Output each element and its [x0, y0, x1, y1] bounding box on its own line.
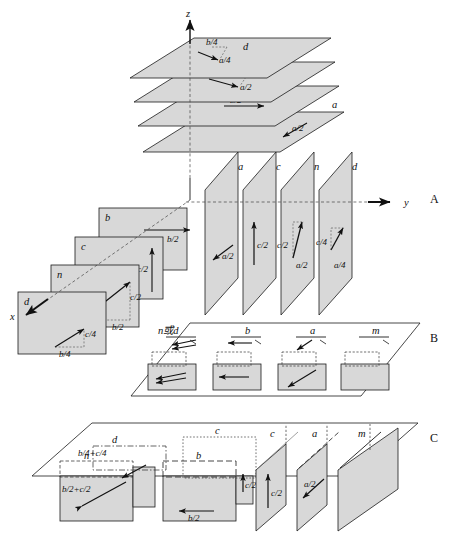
plane-label-right-c: c	[276, 161, 281, 172]
veclabel-right-a-half: a/2	[222, 251, 234, 261]
panel-c-veclabel-c-front: c/2	[245, 480, 256, 490]
panel-c-label-b: b	[196, 450, 201, 461]
panel-b-label-a: a	[310, 325, 315, 336]
plane-label-left-b: b	[105, 212, 110, 223]
panel-c-label-c-front: c	[215, 425, 220, 436]
panel-c-veclabel-a: a/2	[304, 479, 316, 489]
plane-right-c	[243, 152, 276, 315]
panel-c-dashed-b	[163, 461, 236, 477]
panel-b-label-m: m	[372, 325, 380, 336]
plane-label-horizontal-d: d	[243, 41, 249, 52]
veclabel-horizontal-a-half: a/2	[292, 123, 304, 133]
panel-b-leader-a	[320, 340, 326, 344]
axis-label-z: z	[185, 8, 190, 19]
veclabel-horizontal-d-b: b/4	[206, 37, 218, 47]
veclabel-right-c-half: c/2	[257, 240, 268, 250]
panel-c-dashed-c-front	[183, 437, 256, 478]
veclabel-right-n-a: a/2	[296, 260, 308, 270]
panel-b-plane-a	[278, 364, 326, 390]
panel-c-label-m: m	[358, 428, 366, 439]
veclabel-right-d-a: a/4	[334, 260, 346, 270]
plane-label-left-n: n	[57, 269, 62, 280]
plane-right-a	[205, 152, 238, 315]
axis-label-x: x	[9, 311, 15, 322]
plane-label-horizontal-a: a	[332, 99, 337, 110]
panel-b-group-m: m	[341, 325, 389, 390]
plane-right-d	[319, 152, 352, 315]
panel-c-dashed-n	[60, 461, 133, 477]
panel-b-plane-m	[341, 364, 389, 390]
plane-left-d	[18, 292, 106, 354]
veclabel-left-n-b: b/2	[112, 322, 124, 332]
panel-b: n或d b a	[131, 323, 420, 396]
plane-label-right-d: d	[352, 161, 358, 172]
veclabel-left-n-c: c/2	[130, 292, 141, 302]
panel-c-label-c-back: c	[270, 428, 275, 439]
axis-label-y: y	[403, 197, 409, 208]
panel-c-label-d: d	[112, 434, 118, 445]
panel-a-right-stack: a a/2 c c/2 n c/2 a/2 d c/4 a/4 y	[186, 152, 409, 315]
panel-b-arrow-n-or-d-1	[172, 345, 196, 349]
panel-c-veclabel-d: b/4+c/4	[78, 448, 107, 458]
veclabel-left-d-c: c/4	[85, 329, 96, 339]
plane-label-right-a: a	[238, 161, 243, 172]
panel-c-label-a: a	[312, 428, 317, 439]
veclabel-right-d-c: c/4	[316, 237, 327, 247]
panel-c: n b/2+c/2 d b/4+c/4 b b/2 c c/2 c c/2 a …	[32, 423, 418, 531]
panel-b-plane-n-or-d	[148, 364, 196, 390]
plane-right-n	[281, 152, 314, 315]
panel-b-leader-b	[255, 340, 261, 344]
panel-b-group-n-or-d: n或d	[148, 325, 196, 390]
panel-b-group-b: b	[213, 325, 261, 390]
veclabel-left-b-half: b/2	[167, 234, 179, 244]
panel-label-a: A	[430, 192, 439, 206]
panel-c-veclabel-c-back: c/2	[271, 488, 282, 498]
panel-b-label-b: b	[245, 325, 250, 336]
panel-c-plane-d	[133, 467, 155, 507]
panel-b-group-a: a	[278, 325, 326, 390]
figure-canvas: A B C a a/2 b b/2 n b/2 a/2 d b/4 a/4	[0, 0, 469, 555]
plane-label-left-c: c	[81, 241, 86, 252]
veclabel-horizontal-n-a: a/2	[240, 82, 252, 92]
panel-c-veclabel-b: b/2	[188, 513, 200, 523]
veclabel-horizontal-d-a: a/4	[219, 55, 231, 65]
plane-label-right-n: n	[314, 161, 319, 172]
plane-label-left-d: d	[24, 296, 30, 307]
panel-b-leader-m	[383, 340, 389, 344]
panel-label-c: C	[430, 431, 438, 445]
veclabel-left-d-b: b/4	[59, 349, 71, 359]
veclabel-right-n-c: c/2	[277, 240, 288, 250]
panel-b-label-n-or-d: n或d	[158, 325, 179, 336]
panel-label-b: B	[430, 331, 438, 345]
panel-c-veclabel-n: b/2+c/2	[62, 484, 91, 494]
panel-b-arrow-a	[297, 340, 312, 350]
symmetry-plane-figure: A B C a a/2 b b/2 n b/2 a/2 d b/4 a/4	[0, 0, 469, 555]
